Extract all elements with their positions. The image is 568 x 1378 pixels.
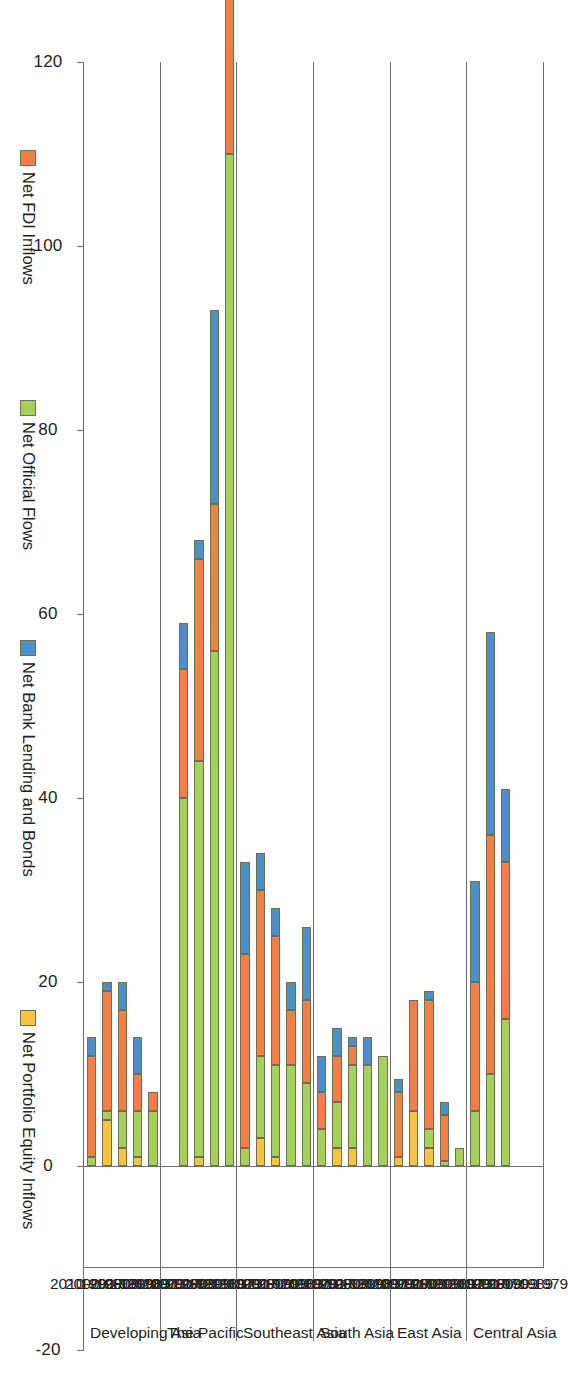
legend-swatch-icon (20, 150, 36, 166)
legend-label: Net FDI Inflows (19, 172, 38, 285)
legend-label: Net Bank Lending and Bonds (19, 662, 38, 877)
legend-swatch-icon (20, 400, 36, 416)
legend-label: Net Portfolio Equity Inflows (19, 1032, 38, 1229)
legend-swatch-icon (20, 1010, 36, 1026)
legend-swatch-icon (20, 640, 36, 656)
legend-label: Net Official Flows (19, 422, 38, 550)
